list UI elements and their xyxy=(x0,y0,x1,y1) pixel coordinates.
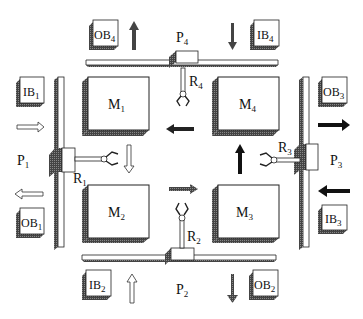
arrow-left-ob1-icon xyxy=(15,189,43,199)
arrow-left-m4-m1-icon xyxy=(166,124,194,134)
arrow-up-ib2-icon xyxy=(127,274,137,303)
machine-m2: M2 xyxy=(82,185,149,243)
buffer-ob3: OB3 xyxy=(318,77,347,107)
arrow-down-m1-m2-icon xyxy=(124,145,134,173)
arrow-right-m2-m3-icon xyxy=(169,184,198,194)
machine-m3: M3 xyxy=(212,185,279,243)
buffer-ob2: OB2 xyxy=(249,270,278,300)
robot-r1-label: R1 xyxy=(73,171,87,188)
robot-r4: R4 xyxy=(169,51,203,106)
buffer-ib4: IB4 xyxy=(250,20,279,50)
arrow-up-m3-m4-icon xyxy=(235,144,245,174)
arrow-down-ib4-icon xyxy=(228,23,237,50)
arrow-down-ob2-icon xyxy=(227,274,238,303)
track-p2-label: P2 xyxy=(176,282,188,299)
track-p4-label: P4 xyxy=(176,30,189,47)
robot-r3-label: R3 xyxy=(278,140,292,157)
machine-m1: M1 xyxy=(82,77,149,136)
robot-r4-label: R4 xyxy=(189,74,203,91)
track-p1-label: P1 xyxy=(17,153,29,170)
robot-r3: R3 xyxy=(260,140,318,175)
buffer-ib3: IB3 xyxy=(318,205,347,234)
robotic-cell-diagram: M1 M4 M2 M3 xyxy=(0,0,363,319)
buffer-ob4: OB4 xyxy=(89,20,118,50)
arrow-up-ob4-icon xyxy=(129,21,139,50)
buffer-ib1: IB1 xyxy=(16,77,44,107)
robot-r2-label: R2 xyxy=(187,229,201,246)
buffer-ib2: IB2 xyxy=(82,270,111,300)
buffer-ob1: OB1 xyxy=(16,208,44,238)
track-p3-label: P3 xyxy=(330,153,343,170)
arrow-right-ob3-icon xyxy=(318,119,350,131)
machine-m4: M4 xyxy=(212,77,279,136)
arrow-right-ib1-icon xyxy=(17,122,44,132)
arrow-left-ib3-icon xyxy=(318,185,350,197)
